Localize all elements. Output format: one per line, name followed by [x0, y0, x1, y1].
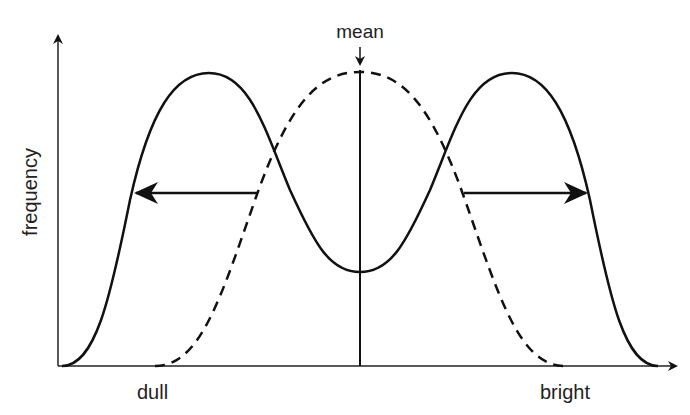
- disruptive-selection-diagram: mean dull bright frequency: [0, 0, 690, 415]
- bright-label: bright: [540, 381, 590, 403]
- frequency-axis-label: frequency: [19, 148, 41, 236]
- mean-label: mean: [336, 21, 384, 42]
- dull-label: dull: [137, 381, 168, 403]
